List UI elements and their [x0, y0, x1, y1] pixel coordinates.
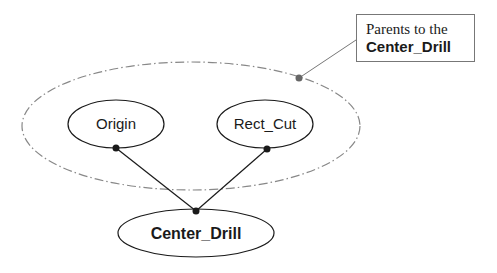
node-center-drill-label: Center_Drill — [151, 225, 242, 242]
node-rect-cut[interactable]: Rect_Cut — [217, 100, 313, 148]
node-origin[interactable]: Origin — [68, 100, 164, 148]
connector-dot-origin — [113, 145, 120, 152]
connector-dot-rect-cut — [264, 146, 271, 153]
edge-origin-to-center-drill — [116, 148, 196, 211]
connector-dot-center-drill — [193, 208, 200, 215]
callout-box: Parents to the Center_Drill — [356, 14, 475, 62]
node-center-drill[interactable]: Center_Drill — [118, 209, 274, 257]
callout-text-line2: Center_Drill — [366, 38, 474, 56]
callout-leader-line — [299, 40, 356, 78]
callout-anchor-dot — [296, 75, 303, 82]
edge-rect-cut-to-center-drill — [196, 149, 267, 211]
node-origin-label: Origin — [96, 115, 136, 132]
node-rect-cut-label: Rect_Cut — [234, 115, 297, 132]
callout-text-line1: Parents to the — [366, 20, 474, 38]
